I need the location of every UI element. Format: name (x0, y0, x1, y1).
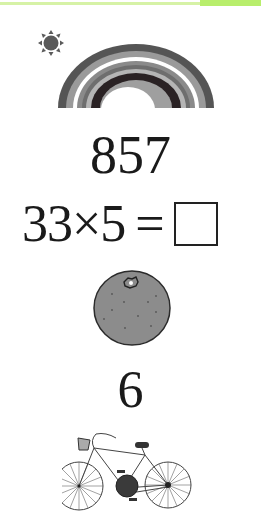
orange-icon (90, 264, 174, 348)
number-display-1: 857 (0, 128, 261, 182)
rainbow-icon (56, 42, 216, 110)
header-accent-block (200, 0, 261, 6)
equation-left: 33×5 (22, 198, 125, 250)
answer-box[interactable] (174, 202, 218, 246)
number-display-2: 6 (0, 364, 261, 416)
equation-operator: = (135, 198, 163, 250)
equation: 33×5 = (22, 196, 218, 252)
bicycle-icon (62, 428, 202, 514)
header-accent-line (0, 2, 200, 5)
